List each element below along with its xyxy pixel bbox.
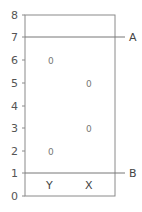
reference-label-a: A <box>129 31 137 44</box>
svg-text:6: 6 <box>11 54 18 67</box>
svg-text:7: 7 <box>11 31 18 44</box>
svg-text:2: 2 <box>11 145 18 158</box>
category-label-y: Y <box>45 179 53 192</box>
svg-text:3: 3 <box>11 122 18 135</box>
svg-text:0: 0 <box>11 190 18 203</box>
diagram: 0 1 2 3 4 5 6 7 8 A B 0 0 0 0 Y X <box>0 0 142 212</box>
point-y-2: 0 <box>48 147 54 157</box>
svg-text:1: 1 <box>11 167 18 180</box>
point-x-3: 0 <box>86 124 92 134</box>
category-label-x: X <box>85 179 93 192</box>
point-x-5: 0 <box>86 79 92 89</box>
reference-label-b: B <box>129 167 137 180</box>
y-axis-tick-labels: 0 1 2 3 4 5 6 7 8 <box>11 9 18 203</box>
plot-frame <box>25 15 115 196</box>
svg-text:5: 5 <box>11 77 18 90</box>
svg-text:8: 8 <box>11 9 18 22</box>
svg-text:4: 4 <box>11 100 18 113</box>
point-y-6: 0 <box>48 56 54 66</box>
